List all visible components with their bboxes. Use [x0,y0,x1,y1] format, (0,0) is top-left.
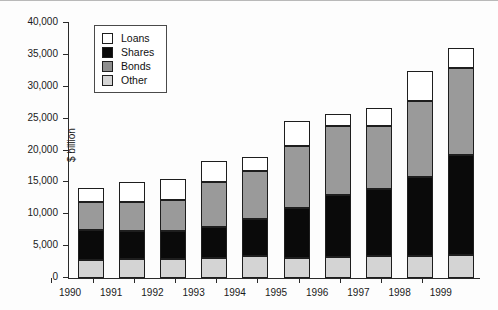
chart-page: $ billion 05,00010,00015,00020,00025,000… [0,0,498,310]
bar-segment-loans-1993 [201,161,227,181]
bar-segment-bonds-1996 [325,126,351,195]
bar-segment-shares-1990 [78,230,104,260]
loans-swatch-icon [102,33,113,44]
bar-segment-other-1997 [366,256,392,278]
bar-segment-bonds-1997 [366,126,392,189]
bar-segment-shares-1993 [201,227,227,258]
bar-segment-shares-1994 [242,219,268,255]
legend-item-other: Other [102,73,154,87]
y-tick-label: 15,000 [27,175,58,186]
x-tick-label: 1994 [224,287,246,298]
x-tick-label: 1996 [306,287,328,298]
bar-segment-other-1993 [201,258,227,278]
x-tick-label: 1997 [347,287,369,298]
bar-segment-loans-1998 [407,71,433,102]
y-tick-label: 40,000 [27,16,58,27]
x-tick-mark [340,278,341,283]
bar-segment-shares-1995 [284,208,310,258]
x-tick-mark [216,278,217,283]
bar-1993 [201,161,227,278]
legend-item-loans: Loans [102,31,154,45]
bonds-swatch-icon [102,61,113,72]
y-tick-mark [63,213,69,214]
bar-1991 [119,182,145,278]
legend-label-bonds: Bonds [121,60,151,72]
x-tick-label: 1991 [100,287,122,298]
bar-1994 [242,157,268,278]
x-tick-mark [422,278,423,283]
bar-segment-other-1998 [407,256,433,278]
legend-label-loans: Loans [121,32,150,44]
chart-legend: Loans Shares Bonds Other [94,25,167,93]
x-tick-label: 1995 [265,287,287,298]
bar-segment-shares-1998 [407,177,433,255]
bar-segment-bonds-1991 [119,202,145,231]
y-axis-title: $ billion [66,128,77,162]
x-tick-label: 1990 [59,287,81,298]
bar-segment-shares-1997 [366,189,392,257]
bar-segment-other-1991 [119,259,145,278]
y-tick-mark [63,245,69,246]
legend-item-bonds: Bonds [102,59,154,73]
y-tick-label: 5,000 [33,239,58,250]
y-tick-label: 25,000 [27,112,58,123]
bar-segment-loans-1995 [284,121,310,146]
other-swatch-icon [102,75,113,86]
bar-segment-loans-1999 [448,48,474,68]
x-axis-line [68,278,480,279]
bar-segment-shares-1991 [119,231,145,259]
bar-segment-bonds-1998 [407,101,433,177]
x-tick-mark [93,278,94,283]
bar-segment-loans-1991 [119,182,145,201]
x-tick-mark [299,278,300,283]
y-tick-mark [63,277,69,278]
bar-segment-bonds-1993 [201,182,227,227]
y-tick-mark [63,181,69,182]
bar-segment-other-1999 [448,255,474,278]
x-tick-mark [257,278,258,283]
x-tick-mark [381,278,382,283]
bar-1995 [284,121,310,278]
bar-1998 [407,71,433,278]
bar-segment-bonds-1992 [160,200,186,232]
y-tick-mark [63,118,69,119]
bar-segment-other-1994 [242,256,268,278]
legend-label-shares: Shares [121,46,154,58]
bar-segment-loans-1990 [78,188,104,201]
bar-segment-loans-1992 [160,179,186,199]
y-tick-label: 10,000 [27,207,58,218]
bar-segment-shares-1996 [325,195,351,257]
y-tick-label: 20,000 [27,144,58,155]
bar-segment-loans-1996 [325,114,351,126]
bar-segment-loans-1994 [242,157,268,171]
x-tick-mark [175,278,176,283]
bar-1992 [160,179,186,278]
bar-segment-other-1990 [78,260,104,278]
bar-1997 [366,108,392,278]
x-tick-mark [51,278,52,283]
bar-segment-other-1992 [160,259,186,278]
bar-1999 [448,48,474,278]
bar-segment-other-1996 [325,257,351,278]
bar-segment-shares-1992 [160,231,186,258]
bar-segment-other-1995 [284,258,310,278]
y-tick-label: 30,000 [27,80,58,91]
bar-1990 [78,188,104,278]
shares-swatch-icon [102,47,113,58]
bar-segment-bonds-1990 [78,202,104,231]
x-tick-label: 1999 [430,287,452,298]
bar-segment-bonds-1999 [448,68,474,155]
x-tick-label: 1998 [388,287,410,298]
legend-label-other: Other [121,74,147,86]
y-tick-mark [63,22,69,23]
bar-segment-loans-1997 [366,108,392,126]
x-tick-label: 1993 [182,287,204,298]
x-tick-mark [134,278,135,283]
x-tick-label: 1992 [141,287,163,298]
bar-segment-bonds-1994 [242,171,268,219]
y-tick-mark [63,150,69,151]
bar-1996 [325,114,351,278]
legend-item-shares: Shares [102,45,154,59]
y-tick-label: 0 [52,271,58,282]
bar-segment-shares-1999 [448,155,474,255]
